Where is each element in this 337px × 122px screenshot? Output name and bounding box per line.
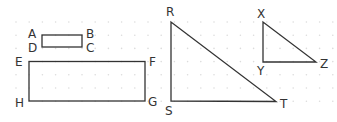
vertex-label-a: A: [28, 27, 37, 41]
vertex-label-z: Z: [320, 57, 328, 71]
vertex-label-f: F: [149, 55, 156, 69]
triangle-xyz: [263, 22, 316, 62]
vertex-label-g: G: [148, 95, 157, 109]
rectangle-efgh: [29, 62, 145, 102]
vertex-label-s: S: [165, 104, 173, 118]
vertex-label-r: R: [166, 5, 174, 19]
vertex-label-x: X: [257, 7, 265, 21]
vertex-label-b: B: [86, 27, 94, 41]
vertex-label-e: E: [15, 55, 23, 69]
rectangle-abcd: [42, 35, 82, 47]
vertex-label-c: C: [86, 41, 94, 55]
vertex-label-d: D: [28, 41, 37, 55]
vertex-label-t: T: [279, 97, 288, 111]
diagram-canvas: A B C D E F G H R S T X Y Z: [0, 0, 337, 122]
triangle-rst: [171, 22, 276, 102]
vertex-label-h: H: [15, 96, 24, 110]
vertex-label-y: Y: [256, 64, 265, 78]
